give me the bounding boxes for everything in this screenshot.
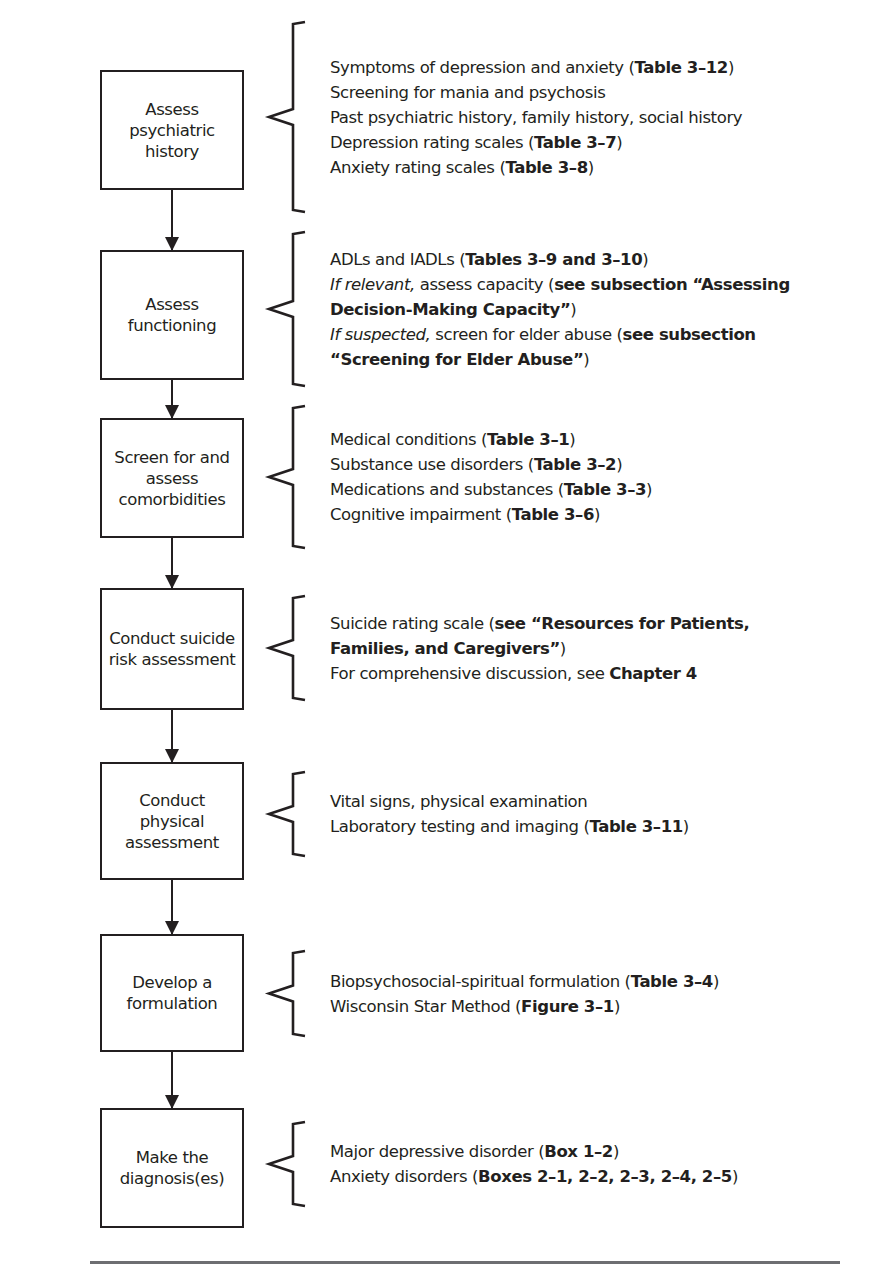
detail-line: Suicide rating scale (see “Resources for…	[330, 611, 749, 636]
arrow-down-icon	[171, 190, 173, 250]
detail-text: )	[683, 817, 689, 836]
step-label-line: Assess	[124, 294, 221, 315]
left-brace-icon	[255, 949, 315, 1038]
detail-line: Symptoms of depression and anxiety (Tabl…	[330, 55, 742, 80]
detail-text: )	[728, 58, 734, 77]
detail-text: Cognitive impairment (	[330, 505, 512, 524]
detail-text: Major depressive disorder (	[330, 1142, 544, 1161]
step-details: Major depressive disorder (Box 1–2)Anxie…	[330, 1139, 738, 1189]
step-label-line: formulation	[123, 993, 222, 1014]
detail-text: Anxiety disorders (	[330, 1167, 478, 1186]
step-box: Make thediagnosis(es)	[100, 1108, 244, 1228]
detail-text: )	[594, 505, 600, 524]
step-label-line: Make the	[116, 1147, 228, 1168]
detail-text: Suicide rating scale (	[330, 614, 495, 633]
step-box: Develop aformulation	[100, 934, 244, 1052]
cross-reference: Table 3–1	[487, 430, 569, 449]
step-label-line: comorbidities	[110, 489, 233, 510]
detail-line: Past psychiatric history, family history…	[330, 105, 742, 130]
detail-text: Depression rating scales (	[330, 133, 534, 152]
detail-text: )	[646, 480, 652, 499]
left-brace-icon	[255, 594, 315, 702]
left-brace-icon	[255, 770, 315, 858]
step-label-line: risk assessment	[105, 649, 240, 670]
detail-line: Families, and Caregivers”)	[330, 636, 749, 661]
cross-reference: see subsection “Assessing	[554, 275, 790, 294]
arrow-down-icon	[171, 380, 173, 418]
step-label-line: assess	[110, 468, 233, 489]
detail-text: )	[583, 350, 589, 369]
step-details: Biopsychosocial-spiritual formulation (T…	[330, 969, 719, 1019]
detail-line: Medications and substances (Table 3–3)	[330, 477, 652, 502]
left-brace-icon	[255, 404, 315, 550]
detail-line: Anxiety disorders (Boxes 2–1, 2–2, 2–3, …	[330, 1164, 738, 1189]
step-label-line: diagnosis(es)	[116, 1168, 228, 1189]
detail-text: )	[713, 972, 719, 991]
bottom-rule	[90, 1261, 840, 1264]
step-details: Medical conditions (Table 3–1)Substance …	[330, 427, 652, 527]
cross-reference: Box 1–2	[544, 1142, 613, 1161]
step-label-line: history	[102, 141, 242, 162]
detail-text: )	[570, 300, 576, 319]
detail-line: Cognitive impairment (Table 3–6)	[330, 502, 652, 527]
step-box: Conduct suiciderisk assessment	[100, 588, 244, 710]
detail-text: )	[732, 1167, 738, 1186]
step-box: Conduct physicalassessment	[100, 762, 244, 880]
detail-line: ADLs and IADLs (Tables 3–9 and 3–10)	[330, 247, 790, 272]
detail-text: If suspected,	[330, 325, 430, 344]
step-details: Symptoms of depression and anxiety (Tabl…	[330, 55, 742, 180]
detail-text: )	[614, 997, 620, 1016]
detail-text: Substance use disorders (	[330, 455, 534, 474]
detail-line: Biopsychosocial-spiritual formulation (T…	[330, 969, 719, 994]
detail-text: If relevant,	[330, 275, 415, 294]
step-label-line: Assess psychiatric	[102, 99, 242, 141]
detail-text: )	[613, 1142, 619, 1161]
cross-reference: Table 3–6	[512, 505, 594, 524]
cross-reference: “Screening for Elder Abuse”	[330, 350, 583, 369]
detail-text: )	[588, 158, 594, 177]
detail-text: Medications and substances (	[330, 480, 564, 499]
detail-line: If relevant, assess capacity (see subsec…	[330, 272, 790, 297]
detail-text: )	[560, 639, 566, 658]
detail-text: ADLs and IADLs (	[330, 250, 465, 269]
detail-text: Wisconsin Star Method (	[330, 997, 521, 1016]
cross-reference: Decision-Making Capacity”	[330, 300, 570, 319]
detail-line: Wisconsin Star Method (Figure 3–1)	[330, 994, 719, 1019]
detail-line: Depression rating scales (Table 3–7)	[330, 130, 742, 155]
cross-reference: Table 3–4	[631, 972, 713, 991]
step-label-line: functioning	[124, 315, 221, 336]
detail-text: Laboratory testing and imaging (	[330, 817, 590, 836]
detail-line: Decision-Making Capacity”)	[330, 297, 790, 322]
detail-line: Anxiety rating scales (Table 3–8)	[330, 155, 742, 180]
detail-text: )	[642, 250, 648, 269]
arrow-down-icon	[171, 538, 173, 588]
step-label-line: Conduct suicide	[105, 628, 240, 649]
step-box: Screen for andassesscomorbidities	[100, 418, 244, 538]
left-brace-icon	[255, 230, 315, 388]
cross-reference: see “Resources for Patients,	[495, 614, 750, 633]
step-label-line: Develop a	[123, 972, 222, 993]
cross-reference: Chapter 4	[609, 664, 697, 683]
detail-text: Screening for mania and psychosis	[330, 83, 605, 102]
cross-reference: Table 3–12	[635, 58, 728, 77]
left-brace-icon	[255, 20, 315, 214]
cross-reference: Table 3–11	[590, 817, 683, 836]
detail-line: Screening for mania and psychosis	[330, 80, 742, 105]
arrow-down-icon	[171, 710, 173, 762]
cross-reference: Table 3–3	[564, 480, 646, 499]
detail-line: For comprehensive discussion, see Chapte…	[330, 661, 749, 686]
step-label-line: assessment	[102, 832, 242, 853]
step-box: Assessfunctioning	[100, 250, 244, 380]
detail-line: Major depressive disorder (Box 1–2)	[330, 1139, 738, 1164]
cross-reference: Table 3–8	[505, 158, 587, 177]
detail-text: )	[616, 133, 622, 152]
detail-text: )	[616, 455, 622, 474]
step-details: Vital signs, physical examinationLaborat…	[330, 789, 689, 839]
left-brace-icon	[255, 1120, 315, 1208]
detail-text: Anxiety rating scales (	[330, 158, 505, 177]
cross-reference: Table 3–7	[534, 133, 616, 152]
detail-text: )	[569, 430, 575, 449]
step-label-line: Screen for and	[110, 447, 233, 468]
detail-text: Biopsychosocial-spiritual formulation (	[330, 972, 631, 991]
step-details: Suicide rating scale (see “Resources for…	[330, 611, 749, 686]
